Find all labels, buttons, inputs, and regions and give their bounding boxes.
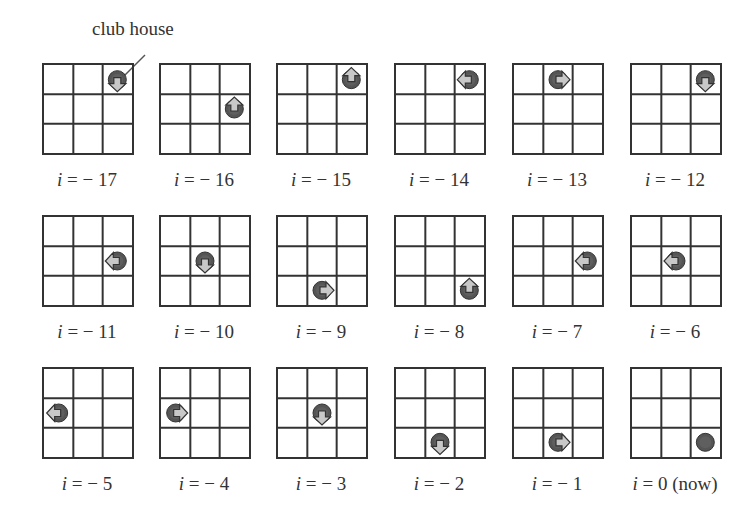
token-icon: [549, 433, 570, 451]
grid-3x3: [276, 367, 368, 459]
index-value: = − 4: [184, 473, 229, 494]
token-icon: [549, 71, 570, 89]
token-icon: [225, 97, 243, 118]
grid-3x3: [159, 215, 251, 307]
token-icon: [696, 71, 714, 92]
grid-3x3: [42, 367, 134, 459]
index-value: = − 1: [537, 473, 582, 494]
token-icon: [108, 71, 126, 92]
grid-3x3: [42, 63, 134, 155]
grid-3x3: [42, 215, 134, 307]
token-icon: [342, 68, 360, 89]
time-step-label: i = − 1: [492, 473, 622, 495]
index-value: = − 14: [414, 169, 469, 190]
time-step-label: i = − 2: [374, 473, 504, 495]
time-step-label: i = − 7: [492, 321, 622, 343]
index-value: = − 13: [532, 169, 587, 190]
grid-3x3: [630, 215, 722, 307]
time-step-label: i = − 16: [139, 169, 269, 191]
index-value: = − 8: [419, 321, 464, 342]
token-icon: [431, 433, 449, 454]
time-step-label: i = − 13: [492, 169, 622, 191]
index-value: = − 16: [179, 169, 234, 190]
grid-3x3: [394, 367, 486, 459]
time-step-label: i = − 12: [610, 169, 740, 191]
token-icon: [313, 404, 331, 425]
token-icon: [664, 252, 685, 270]
index-value: = − 17: [62, 169, 117, 190]
index-value: = − 5: [67, 473, 112, 494]
time-step-label: i = − 4: [139, 473, 269, 495]
time-step-label: i = − 17: [22, 169, 152, 191]
time-step-label: i = − 5: [22, 473, 152, 495]
grid-3x3: [394, 63, 486, 155]
time-step-label: i = − 3: [256, 473, 386, 495]
token-icon: [575, 252, 596, 270]
index-value: = 0 (now): [638, 473, 718, 494]
token-icon: [47, 404, 68, 422]
index-value: = − 7: [537, 321, 582, 342]
token-icon: [696, 433, 714, 451]
index-value: = − 9: [301, 321, 346, 342]
grid-3x3: [394, 215, 486, 307]
time-step-label: i = − 11: [22, 321, 152, 343]
grid-3x3: [159, 367, 251, 459]
grid-3x3: [276, 215, 368, 307]
time-step-label: i = 0 (now): [610, 473, 740, 495]
token-icon: [196, 252, 214, 273]
index-value: = − 12: [650, 169, 705, 190]
index-value: = − 11: [63, 321, 117, 342]
grid-3x3: [630, 63, 722, 155]
grid-3x3: [630, 367, 722, 459]
grid-3x3: [512, 367, 604, 459]
grid-3x3: [159, 63, 251, 155]
grid-3x3: [512, 63, 604, 155]
index-value: = − 6: [655, 321, 700, 342]
token-icon: [457, 71, 478, 89]
club-house-label: club house: [92, 18, 174, 40]
time-step-label: i = − 15: [256, 169, 386, 191]
token-icon: [313, 281, 334, 299]
trajectory-diagram: club house i = − 17i = − 16i = − 15i = −…: [0, 0, 756, 526]
token-icon: [460, 278, 478, 299]
index-value: = − 2: [419, 473, 464, 494]
token-icon: [105, 252, 126, 270]
time-step-label: i = − 6: [610, 321, 740, 343]
index-value: = − 10: [179, 321, 234, 342]
time-step-label: i = − 8: [374, 321, 504, 343]
index-value: = − 15: [296, 169, 351, 190]
index-value: = − 3: [301, 473, 346, 494]
token-icon: [167, 404, 188, 422]
grid-3x3: [276, 63, 368, 155]
grid-3x3: [512, 215, 604, 307]
time-step-label: i = − 10: [139, 321, 269, 343]
time-step-label: i = − 9: [256, 321, 386, 343]
time-step-label: i = − 14: [374, 169, 504, 191]
